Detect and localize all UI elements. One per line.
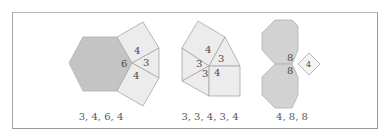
- figure-4-8-8: 8 8 4 4, 8, 8: [262, 20, 320, 122]
- label-triangle-right: 3: [218, 53, 224, 64]
- label-hexagon: 6: [121, 58, 127, 69]
- label-octagon-lower: 8: [287, 65, 293, 76]
- caption-3-4-6-4: 3, 4, 6, 4: [79, 111, 124, 122]
- label-triangle: 3: [143, 57, 149, 68]
- label-square-lower: 4: [214, 67, 220, 78]
- tilings-diagram: 6 4 3 4 3, 4, 6, 4 4 3 3 3 4 3, 3, 4, 3,…: [0, 0, 391, 138]
- label-square-upper: 4: [134, 45, 140, 56]
- caption-3-3-4-3-4: 3, 3, 4, 3, 4: [181, 111, 238, 122]
- figure-3-4-6-4: 6 4 3 4 3, 4, 6, 4: [69, 22, 159, 122]
- label-square: 4: [306, 60, 311, 69]
- label-square-upper: 4: [205, 44, 211, 55]
- label-octagon-upper: 8: [287, 52, 293, 63]
- figure-3-3-4-3-4: 4 3 3 3 4 3, 3, 4, 3, 4: [181, 21, 240, 122]
- label-square-lower: 4: [133, 70, 139, 81]
- label-triangle-bottom: 3: [202, 68, 208, 79]
- caption-4-8-8: 4, 8, 8: [276, 111, 308, 122]
